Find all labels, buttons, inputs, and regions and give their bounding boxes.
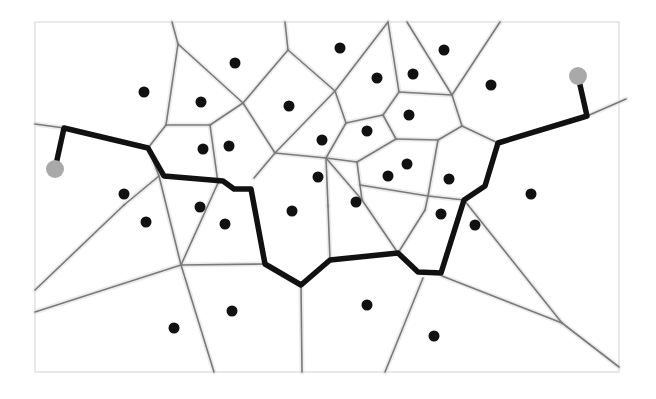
voronoi-edge	[288, 50, 335, 91]
site-point	[284, 101, 295, 112]
voronoi-edge	[362, 200, 398, 253]
voronoi-edge	[178, 44, 243, 103]
site-point	[287, 206, 298, 217]
site-point	[402, 159, 413, 170]
site-point	[351, 197, 362, 208]
site-point	[317, 135, 328, 146]
voronoi-edge	[181, 265, 214, 372]
voronoi-edge	[159, 176, 181, 265]
voronoi-edge	[181, 264, 265, 265]
voronoi-edge	[438, 126, 462, 140]
voronoi-edge	[383, 92, 399, 115]
site-point	[526, 189, 537, 200]
site-point	[436, 209, 447, 220]
site-point	[335, 43, 346, 54]
site-point	[404, 110, 415, 121]
voronoi-edge	[243, 103, 275, 153]
voronoi-edge	[254, 153, 275, 178]
endpoint-goal	[569, 67, 587, 85]
site-point	[313, 172, 324, 183]
site-point	[362, 300, 373, 311]
voronoi-edge	[346, 115, 383, 123]
voronoi-edge	[124, 176, 159, 205]
voronoi-edge	[383, 115, 396, 139]
voronoi-edge	[301, 285, 302, 372]
voronoi-edge	[452, 95, 462, 126]
voronoi-edge	[148, 125, 166, 148]
voronoi-edge	[396, 139, 438, 140]
voronoi-edge	[398, 210, 425, 253]
voronoi-edge	[360, 185, 428, 196]
site-point	[227, 306, 238, 317]
site-point	[224, 141, 235, 152]
voronoi-edge	[335, 91, 346, 123]
voronoi-edge	[35, 205, 124, 290]
voronoi-edge	[407, 22, 452, 95]
site-point	[383, 171, 394, 182]
voronoi-edge	[587, 99, 626, 116]
path-endpoints	[46, 67, 587, 178]
site-point	[119, 189, 130, 200]
endpoint-start	[46, 160, 64, 178]
voronoi-edge	[243, 50, 288, 103]
voronoi-edge	[428, 140, 438, 196]
site-point	[169, 323, 180, 334]
voronoi-edge	[462, 126, 498, 143]
voronoi-diagram	[0, 0, 656, 399]
voronoi-edge	[210, 103, 243, 125]
site-point	[444, 174, 455, 185]
site-point	[230, 58, 241, 69]
voronoi-edge	[385, 278, 423, 372]
site-point	[139, 87, 150, 98]
site-point	[198, 144, 209, 155]
voronoi-edge	[562, 323, 619, 367]
site-point	[141, 217, 152, 228]
voronoi-edge	[357, 139, 396, 162]
site-point	[362, 126, 373, 137]
site-point	[196, 97, 207, 108]
voronoi-edge	[166, 44, 178, 125]
voronoi-edge	[326, 123, 346, 158]
site-point	[372, 73, 383, 84]
site-point	[486, 80, 497, 91]
voronoi-edge	[181, 183, 218, 265]
site-point	[195, 202, 206, 213]
site-point	[220, 219, 231, 230]
site-point	[429, 331, 440, 342]
voronoi-edge	[210, 125, 218, 183]
site-point	[439, 45, 450, 56]
voronoi-edge	[388, 22, 399, 92]
site-point	[408, 69, 419, 80]
site-point	[470, 220, 481, 231]
